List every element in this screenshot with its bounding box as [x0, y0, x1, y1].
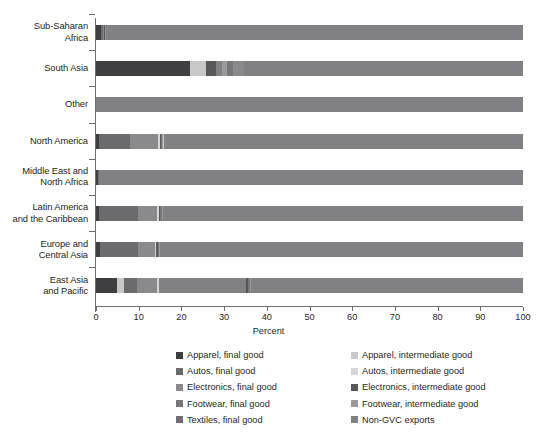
legend-label: Footwear, final good — [187, 399, 270, 409]
x-axis-tick — [267, 307, 268, 311]
legend-swatch-icon — [351, 352, 358, 359]
x-axis-tick-label: 0 — [93, 312, 98, 322]
y-axis-category-labels: Sub-SaharanAfricaSouth AsiaOtherNorth Am… — [0, 14, 88, 302]
legend-label: Non-GVC exports — [362, 415, 435, 425]
y-axis-label: Middle East andNorth Africa — [0, 165, 88, 187]
x-axis-tick-label: 20 — [176, 312, 186, 322]
bar-segment — [164, 134, 523, 149]
x-axis-tick — [310, 307, 311, 311]
legend-item[interactable]: Apparel, intermediate good — [351, 350, 472, 360]
legend-item[interactable]: Autos, intermediate good — [351, 366, 464, 376]
y-axis-tick — [89, 267, 95, 268]
y-axis-tick — [89, 50, 95, 51]
bar-segment — [160, 242, 187, 257]
bar-segment — [99, 134, 131, 149]
plot-area: Sub-SaharanAfricaSouth AsiaOtherNorth Am… — [0, 14, 537, 314]
bar-segment — [99, 170, 523, 185]
stacked-bar-chart: Sub-SaharanAfricaSouth AsiaOtherNorth Am… — [0, 0, 537, 438]
bar-segment — [244, 61, 523, 76]
x-axis-tick — [438, 307, 439, 311]
bar-row — [96, 170, 523, 185]
x-axis-tick — [395, 307, 396, 311]
legend-item[interactable]: Footwear, final good — [176, 399, 270, 409]
bar-segment — [124, 278, 136, 293]
bar-segment — [233, 61, 244, 76]
bar-row — [96, 242, 523, 257]
bar-segment — [117, 278, 124, 293]
bar-segment — [163, 206, 190, 221]
y-axis-tick — [89, 159, 95, 160]
y-axis-tick — [89, 231, 95, 232]
legend-item[interactable]: Electronics, final good — [176, 382, 277, 392]
bar-segment — [189, 206, 522, 221]
bar-row — [96, 206, 523, 221]
bar-row — [96, 278, 523, 293]
legend-item[interactable]: Apparel, final good — [176, 350, 264, 360]
legend-label: Autos, final good — [187, 366, 255, 376]
bar-segment — [100, 242, 138, 257]
bar-segment — [96, 278, 117, 293]
legend-swatch-icon — [176, 352, 183, 359]
bar-segment — [227, 61, 234, 76]
bar-segment — [206, 61, 216, 76]
legend-label: Electronics, final good — [187, 382, 277, 392]
x-axis-tick-label: 90 — [475, 312, 485, 322]
bar-segment — [106, 25, 523, 40]
legend-swatch-icon — [176, 416, 183, 423]
y-axis-tick — [89, 86, 95, 87]
legend-label: Electronics, intermediate good — [362, 382, 486, 392]
legend-swatch-icon — [176, 400, 183, 407]
y-axis-tick — [89, 123, 95, 124]
x-axis-tick-label: 60 — [347, 312, 357, 322]
legend-swatch-icon — [351, 368, 358, 375]
x-axis-tick — [352, 307, 353, 311]
x-axis-tick — [96, 307, 97, 311]
y-axis-label: Europe andCentral Asia — [0, 238, 88, 260]
x-axis-tick-label: 70 — [390, 312, 400, 322]
legend-swatch-icon — [176, 368, 183, 375]
bar-segment — [159, 278, 246, 293]
bar-segment — [137, 278, 157, 293]
bar-segment — [187, 242, 523, 257]
x-axis-title: Percent — [0, 326, 537, 336]
legend-label: Textiles, final good — [187, 415, 263, 425]
bar-segment — [190, 61, 206, 76]
bar-segment — [96, 61, 190, 76]
x-axis-tick — [139, 307, 140, 311]
chart-legend: Apparel, final goodApparel, intermediate… — [176, 350, 526, 432]
legend-swatch-icon — [351, 400, 358, 407]
x-axis-tick — [224, 307, 225, 311]
x-axis-tick — [181, 307, 182, 311]
y-axis-label: East Asiaand Pacific — [0, 274, 88, 296]
legend-item[interactable]: Electronics, intermediate good — [351, 382, 486, 392]
bar-segment — [96, 97, 523, 112]
y-axis-label: South Asia — [0, 62, 88, 73]
legend-item[interactable]: Footwear, intermediate good — [351, 399, 478, 409]
legend-item[interactable]: Non-GVC exports — [351, 415, 435, 425]
y-axis-tick — [89, 195, 95, 196]
x-axis-tick-label: 50 — [304, 312, 314, 322]
bar-row — [96, 61, 523, 76]
legend-swatch-icon — [351, 416, 358, 423]
x-axis-tick-label: 40 — [262, 312, 272, 322]
bar-segment — [130, 134, 158, 149]
legend-item[interactable]: Autos, final good — [176, 366, 255, 376]
y-axis-label: Latin Americaand the Caribbean — [0, 201, 88, 223]
x-axis-tick — [480, 307, 481, 311]
x-axis-tick-label: 10 — [134, 312, 144, 322]
legend-swatch-icon — [176, 384, 183, 391]
bar-row — [96, 97, 523, 112]
x-axis-tick-label: 80 — [432, 312, 442, 322]
y-axis-label: Sub-SaharanAfrica — [0, 20, 88, 42]
x-axis-tick-label: 30 — [219, 312, 229, 322]
y-axis-label: North America — [0, 135, 88, 146]
legend-label: Footwear, intermediate good — [362, 399, 478, 409]
legend-label: Autos, intermediate good — [362, 366, 464, 376]
legend-item[interactable]: Textiles, final good — [176, 415, 263, 425]
bar-row — [96, 134, 523, 149]
y-axis-label: Other — [0, 98, 88, 109]
legend-label: Apparel, intermediate good — [362, 350, 472, 360]
legend-label: Apparel, final good — [187, 350, 264, 360]
legend-swatch-icon — [351, 384, 358, 391]
x-axis-tick — [523, 307, 524, 311]
